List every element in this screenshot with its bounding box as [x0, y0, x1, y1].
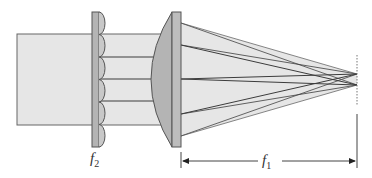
f2-label: f2 — [90, 150, 99, 169]
condenser-lens — [151, 12, 181, 147]
input-beam — [17, 34, 93, 125]
f1-label: f1 — [262, 152, 271, 171]
homogenizer-diagram — [0, 0, 372, 178]
